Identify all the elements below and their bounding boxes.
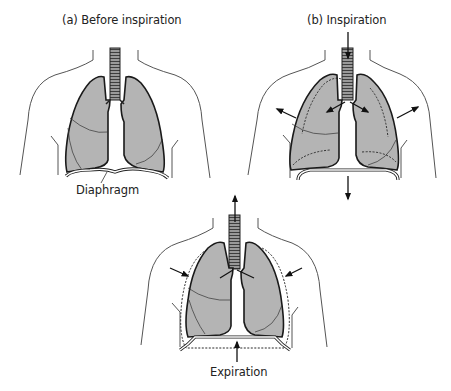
breathing-diagram (0, 0, 451, 391)
expiration-label: Expiration (210, 365, 267, 379)
left-lung (290, 74, 342, 170)
right-lung (353, 74, 399, 170)
right-lung (241, 242, 284, 337)
panel-before-inspiration (20, 48, 210, 183)
chest-out-arrow-right (397, 107, 418, 118)
chest-in-arrow-left (170, 268, 188, 276)
left-lung (186, 242, 233, 337)
left-lung (66, 77, 110, 172)
panel-a-title: (a) Before inspiration (62, 13, 182, 27)
panel-b-title: (b) Inspiration (307, 13, 386, 27)
trachea (229, 215, 240, 269)
right-lung (121, 77, 164, 172)
panel-inspiration (248, 32, 436, 199)
chest-out-arrow-left (277, 109, 296, 118)
trachea (110, 48, 120, 100)
chest-in-arrow-right (286, 268, 302, 276)
panel-expiration (141, 196, 327, 362)
diaphragm-label: Diaphragm (76, 183, 139, 197)
